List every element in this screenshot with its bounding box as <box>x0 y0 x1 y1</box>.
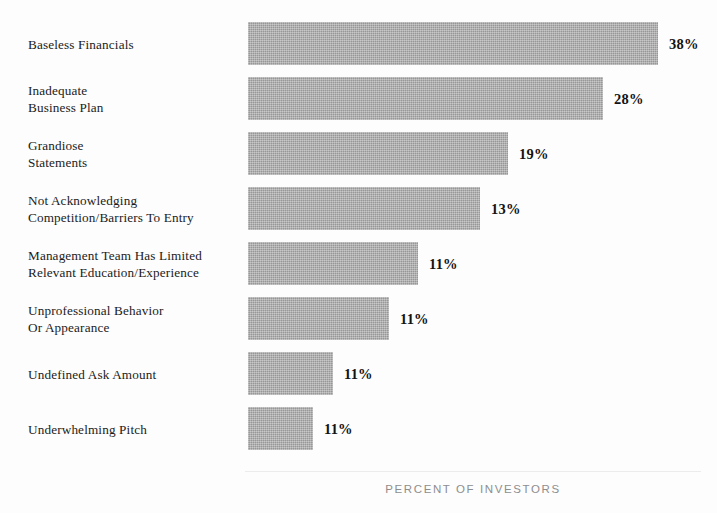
bar-fill <box>248 297 389 340</box>
bar-category-label: Inadequate Business Plan <box>28 82 238 116</box>
x-axis-caption: PERCENT OF INVESTORS <box>245 483 701 495</box>
bar-value-label: 11% <box>429 255 458 272</box>
bar-value-label: 11% <box>324 420 353 437</box>
bar-value-label: 11% <box>400 310 429 327</box>
bar-category-label: Management Team Has Limited Relevant Edu… <box>28 247 238 281</box>
bar-fill <box>248 407 313 450</box>
bar-category-label: Grandiose Statements <box>28 137 238 171</box>
bar-fill <box>248 22 658 65</box>
bar-category-label: Unprofessional Behavior Or Appearance <box>28 302 238 336</box>
bar-fill <box>248 132 508 175</box>
bar-row: Management Team Has Limited Relevant Edu… <box>0 242 717 285</box>
axis-divider <box>245 471 701 472</box>
bar-fill <box>248 77 603 120</box>
bar-row: Underwhelming Pitch 11% <box>0 407 717 450</box>
bar-fill <box>248 187 480 230</box>
bar-row: Unprofessional Behavior Or Appearance 11… <box>0 297 717 340</box>
plot-area: Baseless Financials 38% Inadequate Busin… <box>0 0 717 460</box>
bar-chart: Baseless Financials 38% Inadequate Busin… <box>0 0 717 513</box>
bar-row: Not Acknowledging Competition/Barriers T… <box>0 187 717 230</box>
bar-category-label: Undefined Ask Amount <box>28 365 238 382</box>
bar-category-label: Baseless Financials <box>28 35 238 52</box>
bar-row: Baseless Financials 38% <box>0 22 717 65</box>
bar-value-label: 13% <box>491 200 521 217</box>
bar-row: Grandiose Statements 19% <box>0 132 717 175</box>
bar-fill <box>248 242 418 285</box>
bar-value-label: 11% <box>344 365 373 382</box>
bar-value-label: 28% <box>614 90 644 107</box>
bar-value-label: 38% <box>669 35 699 52</box>
bar-category-label: Underwhelming Pitch <box>28 420 238 437</box>
bar-value-label: 19% <box>519 145 549 162</box>
bar-row: Inadequate Business Plan 28% <box>0 77 717 120</box>
bar-category-label: Not Acknowledging Competition/Barriers T… <box>28 192 238 226</box>
bar-fill <box>248 352 333 395</box>
bar-row: Undefined Ask Amount 11% <box>0 352 717 395</box>
